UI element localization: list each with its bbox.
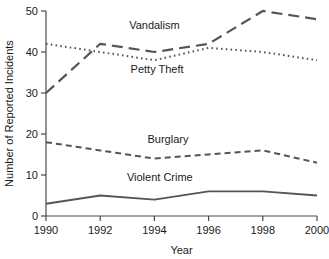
x-tick-label: 1994 (142, 224, 166, 236)
series-label-petty-theft: Petty Theft (131, 63, 184, 75)
x-tick-label: 2000 (305, 224, 329, 236)
series-line-petty-theft (46, 44, 317, 60)
x-tick-label: 1990 (34, 224, 58, 236)
line-chart: 01020304050199019921994199619982000Vanda… (0, 0, 329, 259)
series-label-burglary: Burglary (147, 133, 188, 145)
x-tick-label: 1998 (251, 224, 275, 236)
series-line-violent-crime (46, 191, 317, 203)
y-tick-label: 20 (26, 128, 38, 140)
x-tick-label: 1992 (88, 224, 112, 236)
y-tick-label: 30 (26, 87, 38, 99)
series-label-violent-crime: Violent Crime (127, 171, 193, 183)
x-axis-title: Year (170, 244, 193, 256)
series-label-vandalism: Vandalism (129, 19, 180, 31)
x-tick-label: 1996 (196, 224, 220, 236)
y-tick-label: 50 (26, 5, 38, 17)
y-tick-label: 40 (26, 46, 38, 58)
series-line-vandalism (46, 11, 317, 93)
chart-canvas: 01020304050199019921994199619982000Vanda… (0, 0, 329, 259)
y-tick-label: 10 (26, 169, 38, 181)
y-tick-label: 0 (32, 210, 38, 222)
y-axis-title: Number of Reported Incidents (3, 40, 15, 187)
series-line-burglary (46, 142, 317, 163)
